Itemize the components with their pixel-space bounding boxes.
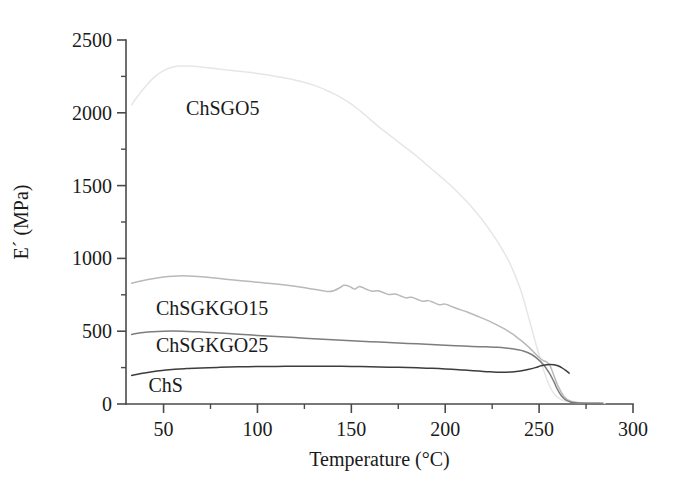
y-tick-label: 1500 xyxy=(72,175,112,197)
y-tick-label: 1000 xyxy=(72,247,112,269)
y-axis-title: E´ (MPa) xyxy=(10,185,33,260)
x-tick-label: 50 xyxy=(154,418,174,440)
x-tick-label: 150 xyxy=(336,418,366,440)
series-label-chsgkgo25: ChSGKGO25 xyxy=(156,334,268,356)
series-label-chsgo5: ChSGO5 xyxy=(186,97,259,119)
dma-storage-modulus-plot: 05001000150020002500 50100150200250300 C… xyxy=(0,0,683,489)
x-axis-title: Temperature (°C) xyxy=(309,448,449,471)
y-tick-label: 2500 xyxy=(72,29,112,51)
plot-background xyxy=(0,0,683,489)
chart-figure: 05001000150020002500 50100150200250300 C… xyxy=(0,0,683,489)
x-tick-label: 100 xyxy=(242,418,272,440)
series-label-chs: ChS xyxy=(149,374,183,396)
x-tick-label: 200 xyxy=(430,418,460,440)
y-tick-label: 500 xyxy=(82,320,112,342)
x-tick-label: 300 xyxy=(618,418,648,440)
x-tick-label: 250 xyxy=(524,418,554,440)
y-tick-label: 2000 xyxy=(72,102,112,124)
y-tick-label: 0 xyxy=(102,393,112,415)
series-label-chsgkgo15: ChSGKGO15 xyxy=(156,297,268,319)
